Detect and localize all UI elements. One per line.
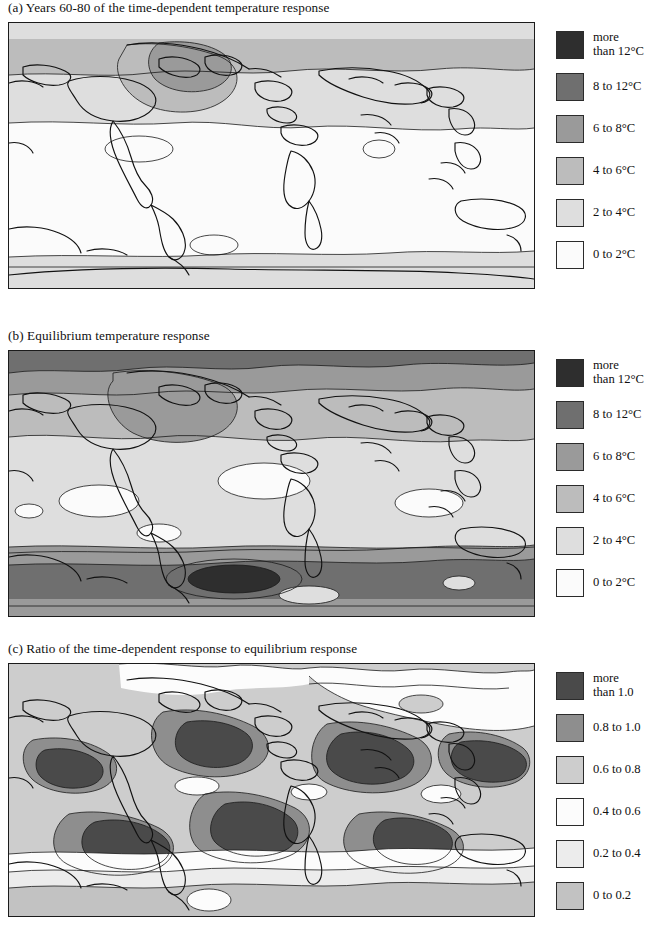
legend-item: more than 12°C [556,352,644,394]
legend-label: 6 to 8°C [593,450,635,464]
panel-c-title: (c) Ratio of the time-dependent response… [8,641,357,656]
legend-item: 0.8 to 1.0 [556,707,641,749]
legend-label: 0 to 2°C [593,248,635,262]
legend-swatch [556,527,584,555]
legend-label: 8 to 12°C [593,80,641,94]
legend-label: 2 to 4°C [593,206,635,220]
legend-item: 8 to 12°C [556,66,644,108]
legend-label: 0 to 2°C [593,576,635,590]
legend-swatch [556,882,584,910]
legend-label: 0.6 to 0.8 [593,763,641,777]
legend-label: 6 to 8°C [593,122,635,136]
legend-item: 6 to 8°C [556,108,644,150]
legend-swatch [556,756,584,784]
legend-item: 8 to 12°C [556,394,644,436]
legend-label: 4 to 6°C [593,492,635,506]
legend-label: more than 1.0 [593,672,634,699]
panel-c-map [8,663,535,917]
legend-swatch [556,31,584,59]
panel-b-title: (b) Equilibrium temperature response [8,328,210,343]
legend-swatch [556,401,584,429]
legend-item: 6 to 8°C [556,436,644,478]
legend-swatch [556,73,584,101]
legend-swatch [556,672,584,700]
panel-c-map-canvas [9,664,534,916]
panel-b-legend: more than 12°C 8 to 12°C 6 to 8°C 4 to 6… [556,352,644,604]
legend-swatch [556,798,584,826]
legend-label: 0.2 to 0.4 [593,847,641,861]
legend-label: 0 to 0.2 [593,889,631,903]
legend-swatch [556,115,584,143]
legend-swatch [556,485,584,513]
legend-swatch [556,241,584,269]
legend-item: 2 to 4°C [556,192,644,234]
legend-label: more than 12°C [593,359,644,386]
legend-item: 4 to 6°C [556,150,644,192]
panel-b-map-canvas [9,351,534,616]
legend-swatch [556,569,584,597]
legend-label: more than 12°C [593,31,644,58]
legend-item: 0 to 2°C [556,234,644,276]
legend-item: more than 12°C [556,24,644,66]
legend-swatch [556,840,584,868]
legend-item: 0.6 to 0.8 [556,749,641,791]
panel-b-map [8,350,535,617]
legend-item: 0 to 0.2 [556,875,641,917]
legend-label: 8 to 12°C [593,408,641,422]
panel-c-legend: more than 1.0 0.8 to 1.0 0.6 to 0.8 0.4 … [556,665,641,917]
legend-swatch [556,443,584,471]
legend-item: 4 to 6°C [556,478,644,520]
legend-item: 0 to 2°C [556,562,644,604]
legend-label: 0.4 to 0.6 [593,805,641,819]
legend-label: 0.8 to 1.0 [593,721,641,735]
panel-a-legend: more than 12°C 8 to 12°C 6 to 8°C 4 to 6… [556,24,644,276]
legend-label: 4 to 6°C [593,164,635,178]
legend-label: 2 to 4°C [593,534,635,548]
legend-item: more than 1.0 [556,665,641,707]
panel-a-map [8,22,535,289]
legend-swatch [556,714,584,742]
legend-swatch [556,199,584,227]
legend-item: 0.4 to 0.6 [556,791,641,833]
legend-item: 2 to 4°C [556,520,644,562]
legend-swatch [556,157,584,185]
panel-a-title: (a) Years 60-80 of the time-dependent te… [8,0,329,15]
legend-swatch [556,359,584,387]
panel-a-map-canvas [9,23,534,288]
legend-item: 0.2 to 0.4 [556,833,641,875]
